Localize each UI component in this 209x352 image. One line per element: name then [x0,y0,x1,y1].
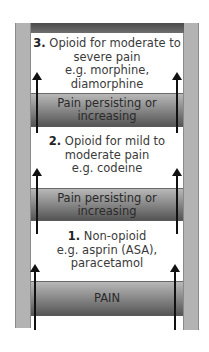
arrow-up-icon [176,78,178,133]
step-2-line2: moderate pain [31,149,183,163]
arrow-up-icon [36,174,38,234]
step-2: 2. Opioid for mild to moderate pain e.g.… [31,135,183,176]
ladder-right-rail [183,23,199,330]
band-upper-line2: increasing [57,110,157,123]
band-pain-persisting-upper: Pain persisting orincreasing [31,93,183,127]
step-3-line1: Opioid for moderate to [49,36,180,50]
step-1-line3: paracetamol [31,257,183,271]
arrow-up-icon [176,174,178,234]
band-lower-line1: Pain persisting or [57,192,157,205]
step-2-number: 2. [49,134,61,148]
step-1-line2: e.g. asprin (ASA), [31,244,183,258]
arrow-up-icon [174,270,176,330]
step-2-line3: e.g. codeine [31,162,183,176]
step-3-line3: e.g. morphine, diamorphine [31,64,183,91]
step-1: 1. Non-opioid e.g. asprin (ASA), paracet… [31,230,183,271]
step-3: 3. Opioid for moderate to severe pain e.… [31,37,183,91]
band-pain: PAIN [31,281,183,316]
step-1-number: 1. [68,229,80,243]
step-1-line1: Non-opioid [84,229,146,243]
arrow-up-icon [34,270,36,330]
ladder-left-rail [15,23,31,328]
band-pain-persisting-lower: Pain persisting orincreasing [31,188,183,221]
ladder-top-rung [31,23,184,33]
band-lower-line2: increasing [57,205,157,218]
step-3-line2: severe pain [31,51,183,65]
step-3-number: 3. [33,36,45,50]
step-2-line1: Opioid for mild to [65,134,165,148]
arrow-up-icon [36,78,38,133]
band-pain-label: PAIN [94,292,120,305]
